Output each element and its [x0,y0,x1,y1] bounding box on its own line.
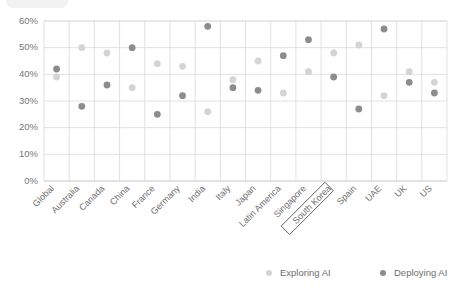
data-point-exploring-ai-italy [230,76,237,83]
x-axis-label-text: UK [393,183,409,199]
chart-container: 0%10%20%30%40%50%60%GlobalAustraliaCanad… [0,0,456,289]
data-point-exploring-ai-uk [406,68,413,75]
data-point-exploring-ai-spain [355,42,362,49]
data-point-deploying-ai-global [53,66,60,73]
legend-label-exploring-ai: Exploring AI [280,267,331,278]
data-point-exploring-ai-canada [104,50,111,57]
data-point-deploying-ai-spain [355,106,362,113]
y-axis-label-50: 50% [19,41,39,52]
x-axis-label-china: China [108,183,132,207]
data-point-deploying-ai-south-korea [330,74,337,81]
data-point-exploring-ai-south-korea [330,50,337,57]
y-axis-label-20: 20% [19,121,39,132]
x-axis-label-text: China [108,183,132,207]
data-point-exploring-ai-latin-america [280,90,287,97]
x-axis-label-uae: UAE [363,183,383,203]
chart-legend: Exploring AIDeploying AI [266,267,447,278]
data-point-exploring-ai-global [53,74,60,81]
x-axis-label-text: India [186,183,207,204]
data-point-exploring-ai-australia [78,44,85,51]
x-axis-label-text: Australia [49,183,81,215]
data-point-exploring-ai-uae [381,92,388,99]
data-point-deploying-ai-uae [381,26,388,33]
data-point-exploring-ai-us [431,79,438,86]
legend-marker-deploying-ai [380,270,386,276]
x-axis-label-spain: Spain [335,183,358,206]
x-axis-label-australia: Australia [49,183,81,215]
y-axis-label-60: 60% [19,15,39,26]
legend-label-deploying-ai: Deploying AI [394,267,447,278]
data-point-deploying-ai-japan [255,87,262,94]
x-axis-label-text: US [418,183,434,199]
data-point-exploring-ai-germany [179,63,186,70]
data-point-deploying-ai-australia [78,103,85,110]
data-point-deploying-ai-uk [406,79,413,86]
data-point-exploring-ai-france [154,60,161,67]
y-axis-label-40: 40% [19,68,39,79]
x-axis-label-italy: Italy [214,183,233,202]
x-axis-label-text: Canada [77,183,106,212]
x-axis-label-india: India [186,183,207,204]
data-point-deploying-ai-canada [104,82,111,89]
data-point-deploying-ai-italy [230,84,237,91]
data-point-deploying-ai-germany [179,92,186,99]
x-axis-label-text: Spain [335,183,358,206]
dot-plot-chart: 0%10%20%30%40%50%60%GlobalAustraliaCanad… [0,0,456,289]
y-axis-label-10: 10% [19,148,39,159]
data-point-exploring-ai-singapore [305,68,312,75]
data-point-deploying-ai-india [204,23,211,30]
data-point-deploying-ai-china [129,44,136,51]
data-point-deploying-ai-latin-america [280,52,287,59]
data-point-deploying-ai-singapore [305,36,312,43]
data-point-exploring-ai-japan [255,58,262,65]
x-axis-label-uk: UK [393,183,409,199]
data-point-deploying-ai-france [154,111,161,118]
y-axis-label-30: 30% [19,95,39,106]
data-point-exploring-ai-china [129,84,136,91]
window-chrome-chip [6,0,68,8]
x-axis-label-us: US [418,183,434,199]
data-point-exploring-ai-india [204,108,211,115]
x-axis-label-text: UAE [363,183,383,203]
data-point-deploying-ai-us [431,90,438,97]
x-axis-label-text: Italy [214,183,233,202]
y-axis-label-0: 0% [24,175,38,186]
legend-marker-exploring-ai [266,270,272,276]
x-axis-label-canada: Canada [77,183,106,212]
